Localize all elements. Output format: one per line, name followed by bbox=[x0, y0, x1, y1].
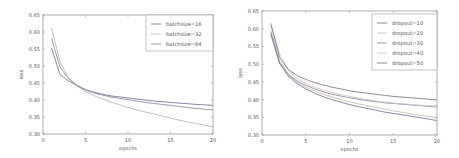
y-tick-label: 0.55 bbox=[29, 46, 40, 52]
legend-label: batchsize=32 bbox=[166, 31, 202, 37]
y-tick-label: 0.45 bbox=[248, 79, 259, 85]
y-tick-label: 0.30 bbox=[248, 132, 259, 138]
y-axis-label: loss bbox=[18, 69, 24, 79]
y-tick-label: 0.65 bbox=[29, 12, 40, 18]
y-tick-label: 0.50 bbox=[248, 61, 259, 67]
y-tick-label: 0.30 bbox=[29, 131, 40, 137]
legend-label: batchsize=16 bbox=[166, 21, 202, 27]
y-tick-label: 0.60 bbox=[248, 26, 259, 32]
x-tick-label: 15 bbox=[167, 137, 173, 143]
legend: batchsize=16batchsize=32batchsize=64 bbox=[146, 15, 213, 51]
legend: dropout=10dropout=20dropout=30dropout=40… bbox=[372, 14, 437, 70]
y-axis-label: loss bbox=[237, 68, 243, 78]
x-tick-label: 5 bbox=[304, 138, 307, 144]
y-tick-label: 0.40 bbox=[248, 97, 259, 103]
x-tick-label: 15 bbox=[390, 138, 396, 144]
legend-label: dropout=40 bbox=[392, 50, 423, 57]
figure: 0.300.350.400.450.500.550.600.6505101520… bbox=[0, 0, 459, 158]
x-tick-label: 0 bbox=[41, 137, 44, 143]
legend-label: dropout=30 bbox=[392, 40, 423, 47]
y-tick-label: 0.40 bbox=[29, 97, 40, 103]
x-tick-label: 0 bbox=[260, 138, 263, 144]
y-tick-label: 0.45 bbox=[29, 80, 40, 86]
y-tick-label: 0.35 bbox=[29, 114, 40, 120]
x-tick-label: 20 bbox=[434, 138, 440, 144]
x-tick-label: 20 bbox=[210, 137, 216, 143]
x-axis-label: epochs bbox=[119, 145, 137, 152]
y-tick-label: 0.55 bbox=[248, 43, 259, 49]
legend-label: dropout=50 bbox=[392, 60, 423, 67]
y-tick-label: 0.35 bbox=[248, 114, 259, 120]
series-line bbox=[52, 48, 214, 105]
legend-label: dropout=10 bbox=[392, 20, 423, 27]
y-tick-label: 0.65 bbox=[248, 8, 259, 14]
legend-label: batchsize=64 bbox=[166, 41, 202, 47]
y-tick-label: 0.60 bbox=[29, 29, 40, 35]
legend-label: dropout=20 bbox=[392, 30, 423, 37]
x-tick-label: 10 bbox=[125, 137, 131, 143]
x-axis-label: epochs bbox=[341, 146, 359, 153]
y-tick-label: 0.50 bbox=[29, 63, 40, 69]
x-tick-label: 5 bbox=[84, 137, 87, 143]
batchsize-loss-chart: 0.300.350.400.450.500.550.600.6505101520… bbox=[0, 0, 229, 158]
x-tick-label: 10 bbox=[346, 138, 352, 144]
dropout-loss-chart: 0.300.350.400.450.500.550.600.6505101520… bbox=[229, 0, 459, 158]
